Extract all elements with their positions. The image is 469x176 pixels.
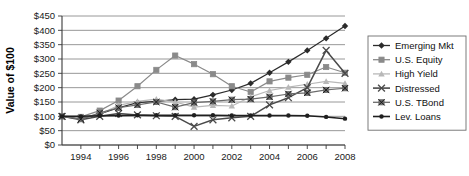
y-axis-tick-label: $400 — [34, 25, 55, 36]
data-point-marker — [210, 92, 216, 98]
y-axis-tick-label: $150 — [34, 96, 55, 107]
legend-item-label: Distressed — [395, 83, 440, 94]
data-point-marker — [267, 79, 272, 84]
data-point-marker — [192, 113, 196, 117]
data-point-marker — [266, 70, 272, 76]
data-point-marker — [135, 84, 140, 89]
x-axis-tick-label: 2002 — [221, 151, 242, 162]
legend-item-label: U.S. TBond — [395, 97, 444, 108]
legend-item-label: Emerging Mkt — [395, 40, 454, 51]
data-point-marker — [60, 114, 64, 118]
y-axis-tick-label: $350 — [34, 39, 55, 50]
y-axis-tick-label: $100 — [34, 111, 55, 122]
data-point-marker — [305, 72, 310, 77]
data-point-marker — [379, 57, 384, 62]
data-point-marker — [154, 67, 159, 72]
data-point-marker — [379, 114, 383, 118]
x-axis-tick-label: 2000 — [183, 151, 204, 162]
data-point-marker — [173, 53, 178, 58]
data-point-marker — [323, 35, 329, 41]
line-chart: $0$50$100$150$200$250$300$350$400$450Val… — [0, 0, 469, 176]
x-axis-tick-label: 1996 — [108, 151, 129, 162]
data-point-marker — [248, 113, 252, 117]
data-point-marker — [98, 114, 102, 118]
series-line — [62, 115, 345, 118]
data-point-marker — [305, 114, 309, 118]
data-point-marker — [173, 113, 177, 117]
data-point-marker — [304, 47, 310, 53]
legend-item-label: U.S. Equity — [395, 54, 443, 65]
chart-container: $0$50$100$150$200$250$300$350$400$450Val… — [0, 0, 469, 176]
data-point-marker — [116, 113, 120, 117]
y-axis-tick-label: $50 — [39, 125, 55, 136]
x-axis-tick-label: 1998 — [146, 151, 167, 162]
series-line — [62, 26, 345, 119]
y-axis-tick-label: $250 — [34, 68, 55, 79]
data-point-marker — [210, 72, 215, 77]
data-point-marker — [324, 115, 328, 119]
data-point-marker — [135, 113, 139, 117]
y-axis-tick-label: $0 — [44, 139, 55, 150]
y-axis-tick-label: $450 — [34, 10, 55, 21]
data-point-marker — [79, 114, 83, 118]
legend-item-label: High Yield — [395, 68, 438, 79]
data-point-marker — [154, 113, 158, 117]
data-point-marker — [247, 80, 253, 86]
data-point-marker — [343, 116, 347, 120]
y-axis-title: Value of $100 — [4, 47, 16, 114]
x-axis-tick-label: 2006 — [297, 151, 318, 162]
data-point-marker — [211, 113, 215, 117]
y-axis-tick-label: $200 — [34, 82, 55, 93]
data-point-marker — [286, 75, 291, 80]
x-axis-tick-label: 2004 — [259, 151, 280, 162]
data-point-marker — [324, 64, 329, 69]
data-point-marker — [285, 59, 291, 65]
data-point-marker — [267, 113, 271, 117]
y-axis-tick-label: $300 — [34, 53, 55, 64]
series-line — [62, 56, 345, 117]
data-point-marker — [229, 84, 234, 89]
data-point-marker — [286, 113, 290, 117]
series-u-s-tbond — [59, 85, 348, 122]
x-axis-tick-label: 2008 — [334, 151, 355, 162]
x-axis-tick-label: 1994 — [70, 151, 91, 162]
data-point-marker — [342, 23, 348, 29]
legend-item-label: Lev. Loans — [395, 111, 441, 122]
data-point-marker — [191, 62, 196, 67]
data-point-marker — [230, 113, 234, 117]
